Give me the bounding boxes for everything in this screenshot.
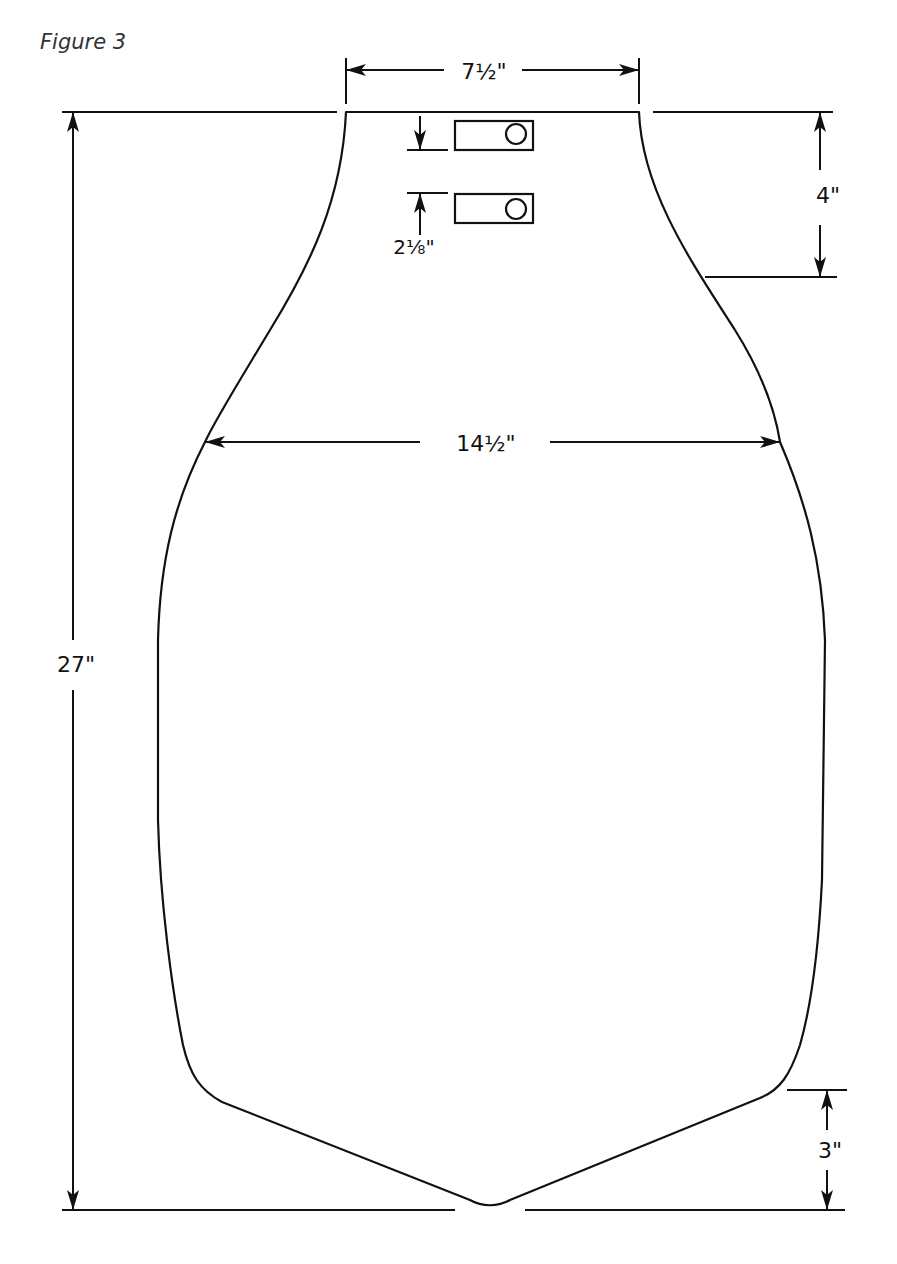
pattern-outline (158, 112, 825, 1205)
lower-slot (455, 194, 533, 223)
mid-width-label: 14½" (456, 431, 515, 456)
point-depth-label: 3" (818, 1138, 842, 1163)
upper-slot-hole-icon (506, 124, 526, 144)
slot-spacing-label: 2⅛" (393, 235, 434, 259)
neck-depth-label: 4" (816, 183, 840, 208)
lower-slot-hole-icon (506, 199, 526, 219)
total-height-label: 27" (57, 652, 95, 677)
upper-slot (455, 121, 533, 150)
pattern-diagram: 7½" 27" 4" 14½" 2⅛" 3" (0, 0, 897, 1264)
top-width-label: 7½" (461, 59, 506, 84)
